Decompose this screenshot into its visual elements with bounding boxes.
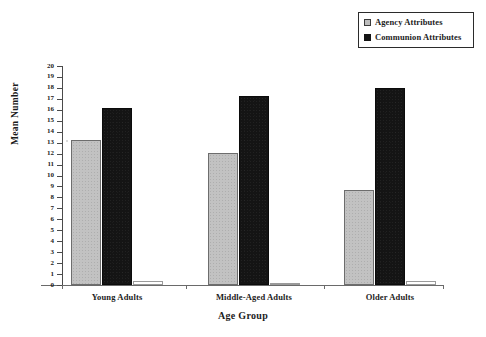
y-axis-tick: [57, 165, 62, 166]
y-axis-tick-label: 18: [38, 84, 54, 91]
y-axis-tick: [57, 132, 62, 133]
y-axis-tick: [57, 176, 62, 177]
plot-area: 20191817161514131211109876543210 Young A…: [0, 0, 486, 337]
y-axis-tick: [57, 274, 62, 275]
y-axis-tick-label: 9: [38, 183, 54, 190]
y-axis-tick-label: 2: [38, 260, 54, 267]
x-axis-title: Age Group: [0, 310, 486, 321]
y-axis-tick-label: 16: [38, 106, 54, 113]
y-axis-tick: [57, 219, 62, 220]
bar-series-3-older-adults: [406, 281, 436, 285]
y-axis-tick-label: 15: [38, 117, 54, 124]
y-axis-tick-label: 8: [38, 194, 54, 201]
y-axis-tick-label: 4: [38, 238, 54, 245]
x-axis-tick: [443, 285, 444, 289]
y-axis-tick-label: 19: [38, 73, 54, 80]
y-axis-tick-label: 10: [38, 172, 54, 179]
y-axis-tick: [57, 110, 62, 111]
y-axis-tick: [57, 99, 62, 100]
figure-canvas: Agency Attributes Communion Attributes 2…: [0, 0, 486, 337]
y-axis-tick-label: 13: [38, 139, 54, 146]
bar-agency-attributes-middle-aged-adults: [208, 153, 238, 285]
y-axis-tick: [57, 77, 62, 78]
x-axis-line: [41, 285, 443, 286]
bar-series-3-young-adults: [133, 281, 163, 285]
y-axis-tick: [57, 143, 62, 144]
y-axis-tick-label: 3: [38, 249, 54, 256]
y-axis-tick-label: 12: [38, 150, 54, 157]
y-axis-tick: [57, 154, 62, 155]
y-axis-tick: [57, 252, 62, 253]
y-axis-tick: [57, 186, 62, 187]
y-axis-tick: [57, 230, 62, 231]
y-axis-tick-label: 1: [38, 271, 54, 278]
bar-agency-attributes-young-adults: [71, 140, 101, 285]
y-axis-tick: [57, 241, 62, 242]
y-axis-tick: [57, 88, 62, 89]
y-axis-tick: [57, 197, 62, 198]
y-axis-tick-label: 17: [38, 95, 54, 102]
y-axis-tick-label: 7: [38, 205, 54, 212]
y-axis-tick-label: 20: [38, 63, 54, 70]
x-axis-tick: [62, 285, 63, 289]
bar-series-3-middle-aged-adults: [270, 283, 300, 286]
bar-communion-attributes-middle-aged-adults: [239, 96, 269, 285]
y-axis-tick-label: 11: [38, 161, 54, 168]
x-axis-label-young-adults: Young Adults: [92, 292, 143, 302]
bar-communion-attributes-young-adults: [102, 108, 132, 285]
x-axis-label-older-adults: Older Adults: [366, 292, 415, 302]
y-axis-tick: [57, 121, 62, 122]
y-axis-line: [62, 66, 63, 286]
y-axis-tick-label: 0: [38, 282, 54, 289]
x-axis-tick: [324, 285, 325, 289]
bar-communion-attributes-older-adults: [375, 88, 405, 285]
x-axis-tick: [186, 285, 187, 289]
y-axis-tick: [57, 263, 62, 264]
y-axis-tick-label: 6: [38, 216, 54, 223]
x-axis-label-middle-aged-adults: Middle-Aged Adults: [216, 292, 292, 302]
y-axis-tick-label: 14: [38, 128, 54, 135]
y-axis-title: Mean Number: [10, 82, 20, 145]
y-axis-tick: [57, 208, 62, 209]
bar-agency-attributes-older-adults: [344, 190, 374, 285]
y-axis-tick-label: 5: [38, 227, 54, 234]
y-axis-tick: [57, 66, 62, 67]
